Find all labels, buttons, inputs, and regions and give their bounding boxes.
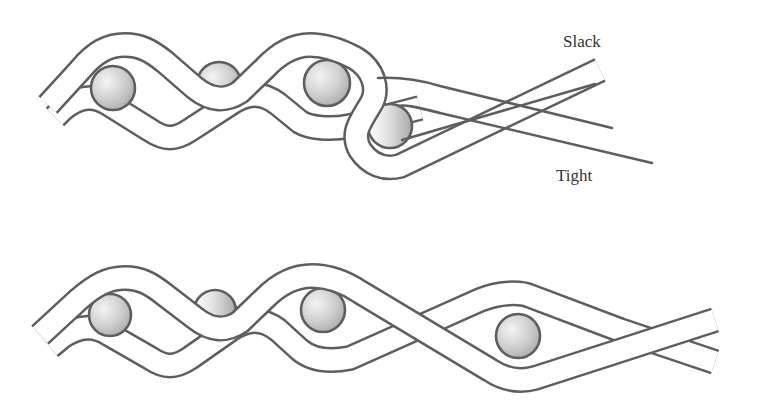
twisted-strands-diagram [0,0,757,400]
ball [91,66,135,110]
ball [304,60,350,106]
bottom-panel [40,276,715,380]
top-panel [48,45,652,167]
ball [496,314,540,358]
tight-label: Tight [556,166,592,186]
slack-label: Slack [563,32,601,52]
